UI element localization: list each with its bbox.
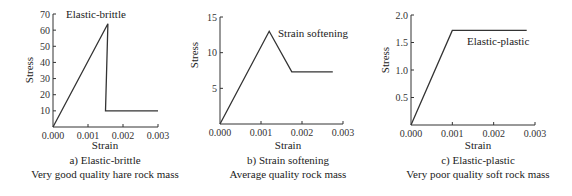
panel-c-ytick-label: 1.0: [396, 65, 409, 76]
panel-b-ytick-label: 10: [207, 47, 217, 58]
panel-b-ytick-label: 15: [207, 12, 217, 23]
panel-a-xlabel: Strain: [92, 139, 119, 151]
panel-a-ytick-label: 40: [40, 57, 50, 68]
panel-b-xtick-label: 0.001: [250, 127, 273, 138]
panel-a-ytick-label: 30: [40, 73, 50, 84]
panel-a-subcaption: Very good quality hare rock mass: [31, 168, 179, 180]
panel-c-ytick-label: 1.5: [396, 37, 409, 48]
panel-c-ytick-label: 0.5: [396, 92, 409, 103]
panel-a-annotation: Elastic-brittle: [66, 8, 126, 20]
panel-c-subcaption: Very poor quality soft rock mass: [406, 168, 549, 180]
panel-b-caption: b) Strain softening: [247, 154, 329, 167]
panel-b-annotation: Strain softening: [278, 27, 348, 39]
panel-a-ytick-label: 70: [40, 9, 50, 20]
panel-a-xtick-label: 0.000: [42, 130, 65, 141]
panel-a-ytick-label: 10: [40, 105, 50, 116]
panel-c: 0.51.01.52.0 0.0000.0010.0020.003 Elasti…: [379, 10, 550, 181]
panel-c-xtick-label: 0.003: [524, 128, 547, 139]
panel-c-annotation: Elastic-plastic: [467, 35, 529, 47]
panel-a-ytick-label: 60: [40, 25, 50, 36]
panel-c-ytick-label: 2.0: [396, 10, 409, 21]
panel-b-subcaption: Average quality rock mass: [230, 168, 347, 180]
figure: 10203040506070 0.0000.0010.0020.003 Elas…: [0, 0, 572, 196]
panel-b-curve: [220, 31, 333, 124]
panel-b-xtick-label: 0.000: [209, 127, 232, 138]
panel-c-xlabel: Strain: [465, 139, 492, 151]
panel-c-ylabel: Stress: [379, 47, 391, 73]
panel-a-ylabel: Stress: [23, 57, 35, 83]
panel-c-caption: c) Elastic-plastic: [441, 154, 515, 167]
panel-b-xtick-label: 0.002: [291, 127, 314, 138]
panel-c-xtick-label: 0.000: [400, 128, 423, 139]
panel-b-ytick-label: 5: [212, 83, 217, 94]
panel-a-ytick-label: 20: [40, 89, 50, 100]
panel-a-xtick-label: 0.003: [147, 130, 170, 141]
panel-b-xtick-label: 0.003: [332, 127, 355, 138]
panel-a-curve: [53, 24, 158, 127]
panel-a-caption: a) Elastic-brittle: [69, 154, 140, 167]
panel-c-xtick-label: 0.001: [441, 128, 464, 139]
panel-a: 10203040506070 0.0000.0010.0020.003 Elas…: [23, 8, 179, 180]
panel-c-xtick-label: 0.002: [482, 128, 505, 139]
panel-b-xlabel: Strain: [275, 139, 302, 151]
panel-b: 51015 0.0000.0010.0020.003 Strain soften…: [188, 12, 354, 181]
panel-b-ylabel: Stress: [188, 42, 200, 68]
panel-a-ytick-label: 50: [40, 41, 50, 52]
